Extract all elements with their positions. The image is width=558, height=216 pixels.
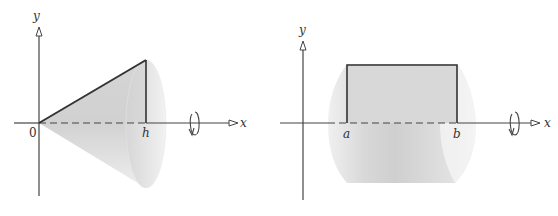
x-axis-arrow-icon <box>229 120 238 126</box>
y-axis-label: y <box>32 9 40 23</box>
y-axis-arrow-icon <box>36 27 42 36</box>
y-axis-arrow-icon <box>300 41 306 50</box>
h-label: h <box>142 126 150 140</box>
x-axis-arrow-icon <box>531 120 540 126</box>
b-label: b <box>453 127 461 141</box>
origin-label: 0 <box>29 126 37 140</box>
rectangle-region <box>347 65 457 123</box>
x-axis-label: x <box>544 116 551 130</box>
x-axis-label: x <box>240 116 247 130</box>
cone-figure: y x 0 h <box>14 9 247 196</box>
a-label: a <box>343 127 350 141</box>
cylinder-figure: y x a b <box>280 23 551 200</box>
y-axis-label: y <box>298 23 306 37</box>
solids-of-revolution-diagram: y x 0 h y x a b <box>0 0 558 216</box>
